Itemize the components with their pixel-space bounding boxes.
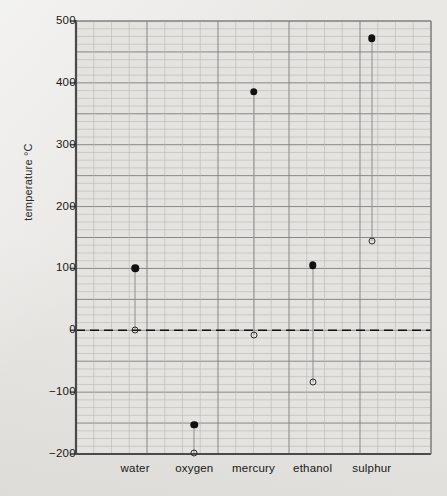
range-stem-ethanol <box>312 265 313 381</box>
y-axis-tick-label: 500 <box>38 14 76 26</box>
y-axis-tick-label: 100 <box>38 261 76 273</box>
y-axis-tick-label: 400 <box>38 76 76 88</box>
y-axis-title: temperature °C <box>22 112 34 252</box>
x-axis-tick-label-water: water <box>121 462 150 474</box>
x-axis-tick-label-mercury: mercury <box>232 462 275 474</box>
boiling-point-marker-ethanol <box>309 262 317 270</box>
range-stem-sulphur <box>371 38 372 240</box>
x-axis-tick-label-sulphur: sulphur <box>352 462 391 474</box>
boiling-point-marker-mercury <box>250 88 258 96</box>
melting-point-marker-ethanol <box>309 378 316 385</box>
y-axis-tick-label: −200 <box>38 447 76 459</box>
range-stem-mercury <box>253 92 254 336</box>
melting-point-marker-oxygen <box>191 449 198 456</box>
x-axis-tick-label-oxygen: oxygen <box>175 462 213 474</box>
x-axis-tick-label-ethanol: ethanol <box>293 462 332 474</box>
chart-figure: temperature °C 5004003002001000−100−200 … <box>0 0 447 496</box>
range-stem-water <box>135 268 136 330</box>
y-axis-tick-label: 0 <box>38 323 76 335</box>
melting-point-marker-mercury <box>250 332 257 339</box>
y-axis-tick-label: 200 <box>38 200 76 212</box>
boiling-point-marker-oxygen <box>191 421 199 429</box>
boiling-point-marker-sulphur <box>368 35 376 43</box>
boiling-point-marker-water <box>131 265 139 273</box>
y-axis-tick-labels: 5004003002001000−100−200 <box>36 0 76 496</box>
melting-point-marker-sulphur <box>368 237 375 244</box>
y-axis-tick-label: 300 <box>38 138 76 150</box>
y-axis-tick-label: −100 <box>38 385 76 397</box>
melting-point-marker-water <box>132 327 139 334</box>
